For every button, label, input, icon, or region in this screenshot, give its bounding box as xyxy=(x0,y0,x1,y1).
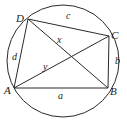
vertex-label-a: A xyxy=(3,84,11,96)
side-c-line xyxy=(28,19,109,36)
diagonal-label-y: y xyxy=(42,61,48,72)
cyclic-quadrilateral-diagram: A B C D a b c d x y xyxy=(0,0,127,125)
side-label-c: c xyxy=(66,10,71,21)
side-label-b: b xyxy=(115,55,120,66)
vertex-label-b: B xyxy=(110,85,117,97)
vertex-label-d: D xyxy=(15,12,24,24)
diagonal-x-line xyxy=(28,19,108,88)
vertex-label-c: C xyxy=(111,29,119,41)
diagonal-label-x: x xyxy=(56,34,62,45)
side-label-d: d xyxy=(12,51,18,62)
side-label-a: a xyxy=(58,90,63,101)
diagonal-y-line xyxy=(14,36,109,88)
side-b-line xyxy=(108,36,109,88)
